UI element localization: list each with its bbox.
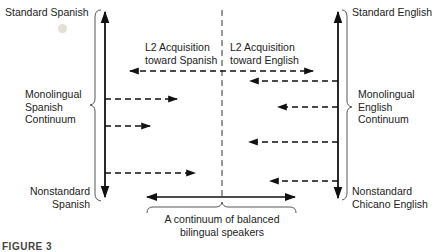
label-line: Nonstandard: [352, 185, 428, 198]
english-brace: [342, 10, 352, 200]
label-line: Monolingual: [25, 88, 82, 101]
label-line: Nonstandard: [20, 185, 90, 198]
nonstandard-chicano-english-label: Nonstandard Chicano English: [352, 185, 428, 210]
label-line: A continuum of balanced: [142, 213, 302, 226]
label-line: Continuum: [358, 113, 415, 126]
nonstandard-spanish-label: Nonstandard Spanish: [20, 185, 90, 210]
l2-acquisition-toward-english-label: L2 Acquisition toward English: [230, 41, 299, 66]
label-line: Spanish: [25, 101, 82, 114]
label-line: toward Spanish: [145, 54, 217, 67]
label-line: toward English: [230, 54, 299, 67]
l2-acquisition-toward-spanish-label: L2 Acquisition toward Spanish: [145, 41, 217, 66]
label-line: English: [358, 101, 415, 114]
label-line: bilingual speakers: [142, 226, 302, 239]
label-line: L2 Acquisition: [145, 41, 217, 54]
label-line: Continuum: [25, 113, 82, 126]
label-line: L2 Acquisition: [230, 41, 299, 54]
monolingual-spanish-continuum-label: Monolingual Spanish Continuum: [25, 88, 82, 126]
label-line: Spanish: [20, 198, 90, 211]
balanced-bilingual-brace: [147, 202, 296, 213]
standard-spanish-label: Standard Spanish: [5, 6, 88, 19]
spanish-brace: [90, 10, 101, 201]
label-line: Monolingual: [358, 88, 415, 101]
label-line: Chicano English: [352, 198, 428, 211]
balanced-bilingual-caption: A continuum of balanced bilingual speake…: [142, 213, 302, 238]
monolingual-english-continuum-label: Monolingual English Continuum: [358, 88, 415, 126]
figure-label: FIGURE 3: [2, 241, 52, 252]
standard-english-label: Standard English: [352, 6, 432, 19]
